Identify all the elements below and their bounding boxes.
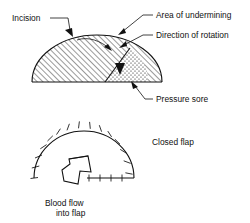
direction-of-rotation-label: Direction of rotation bbox=[156, 30, 229, 40]
figure-root: Incision Area of undermining Direction o… bbox=[0, 0, 250, 223]
bottom-figure-closed-flap: Closed flap Blood flow into flap bbox=[31, 121, 195, 218]
arc-suture-marks bbox=[31, 121, 133, 178]
blood-flow-label-line2: into flap bbox=[56, 208, 86, 218]
incision-leader-elbow bbox=[68, 18, 70, 30]
pressure-sore-leader-diagonal bbox=[135, 86, 145, 99]
incision-arrowhead bbox=[65, 28, 73, 37]
area-of-undermining-label: Area of undermining bbox=[156, 10, 232, 20]
surgical-flap-diagram: Incision Area of undermining Direction o… bbox=[0, 0, 250, 223]
blood-flow-flap-shape bbox=[62, 156, 91, 184]
undermining-leader-diagonal bbox=[122, 15, 143, 32]
pressure-sore-label: Pressure sore bbox=[156, 94, 208, 104]
incision-label: Incision bbox=[12, 13, 41, 23]
blood-flow-label-line1: Blood flow bbox=[45, 198, 85, 208]
blood-flow-flap-inner-line bbox=[69, 156, 88, 159]
closed-flap-label: Closed flap bbox=[152, 137, 194, 147]
undermining-arrowhead bbox=[118, 28, 126, 35]
top-figure-rotation-flap: Incision Area of undermining Direction o… bbox=[12, 10, 232, 104]
